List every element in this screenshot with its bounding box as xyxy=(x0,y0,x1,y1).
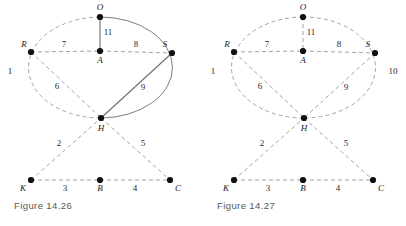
node-label-C: C xyxy=(175,183,182,193)
node-label-A: A xyxy=(96,55,103,65)
node-label-O: O xyxy=(97,2,104,12)
edge-weight-H-C: 5 xyxy=(344,138,349,148)
node-label-A: A xyxy=(299,55,306,65)
node-O xyxy=(97,14,103,20)
edge-weight-A-S: 8 xyxy=(134,39,139,49)
node-label-R: R xyxy=(223,39,230,49)
node-label-H: H xyxy=(97,123,105,133)
edge-weight-K-B: 3 xyxy=(266,183,271,193)
edge-weight-R-H: 6 xyxy=(258,81,263,91)
node-label-S: S xyxy=(163,39,168,49)
node-A xyxy=(300,48,306,54)
node-K xyxy=(231,177,237,183)
node-K xyxy=(28,177,34,183)
edge-A-S xyxy=(303,51,375,53)
figure-14-26: 11178692534ORASHKBC Figure 14.26 xyxy=(0,0,203,226)
edge-weight-K-H: 2 xyxy=(260,138,265,148)
node-R xyxy=(28,49,34,55)
edge-R-A xyxy=(31,51,100,52)
node-label-K: K xyxy=(222,183,230,193)
node-label-B: B xyxy=(300,183,306,193)
node-label-C: C xyxy=(378,183,385,193)
node-O xyxy=(300,14,306,20)
edge-R-H xyxy=(234,52,304,118)
edge-H-C xyxy=(101,118,170,180)
node-S xyxy=(372,50,378,56)
figure-14-27-canvas: 1101178692534ORASHKBC xyxy=(203,0,406,226)
edge-weight-A-S: 8 xyxy=(337,39,342,49)
edge-weight-K-H: 2 xyxy=(57,138,62,148)
figure-14-26-caption: Figure 14.26 xyxy=(14,200,72,211)
arc-weight-1: 1 xyxy=(8,66,13,76)
node-label-O: O xyxy=(300,2,307,12)
figure-14-27: 1101178692534ORASHKBC Figure 14.27 xyxy=(203,0,406,226)
edge-weight-O-A: 11 xyxy=(104,27,113,37)
edge-A-S xyxy=(100,51,172,53)
arc-weight-10: 10 xyxy=(389,66,399,76)
edge-weight-S-H: 9 xyxy=(141,82,146,92)
edge-H-C xyxy=(304,118,373,180)
edge-R-A xyxy=(234,51,303,52)
node-H xyxy=(301,115,307,121)
edge-weight-K-B: 3 xyxy=(63,183,68,193)
edge-weight-S-H: 9 xyxy=(344,82,349,92)
edge-S-H xyxy=(101,53,172,118)
edge-weight-H-C: 5 xyxy=(141,138,146,148)
node-C xyxy=(167,177,173,183)
figure-14-26-canvas: 11178692534ORASHKBC xyxy=(0,0,203,226)
arc-O-H-left xyxy=(28,17,101,118)
arc-weight-1: 1 xyxy=(211,66,216,76)
edge-weight-R-H: 6 xyxy=(55,81,60,91)
node-H xyxy=(98,115,104,121)
node-label-B: B xyxy=(97,183,103,193)
edge-weight-R-A: 7 xyxy=(62,39,67,49)
edge-K-H xyxy=(31,118,101,180)
edge-S-H xyxy=(304,53,375,118)
node-label-H: H xyxy=(300,123,308,133)
node-label-R: R xyxy=(20,39,27,49)
arc-O-H-left xyxy=(231,17,304,118)
node-label-S: S xyxy=(366,39,371,49)
figure-14-27-caption: Figure 14.27 xyxy=(217,200,275,211)
edge-weight-B-C: 4 xyxy=(133,183,138,193)
node-C xyxy=(370,177,376,183)
node-S xyxy=(169,50,175,56)
node-R xyxy=(231,49,237,55)
node-A xyxy=(97,48,103,54)
node-label-K: K xyxy=(19,183,27,193)
edge-weight-R-A: 7 xyxy=(265,39,270,49)
edge-weight-B-C: 4 xyxy=(336,183,341,193)
edge-weight-O-A: 11 xyxy=(307,27,316,37)
edge-R-H xyxy=(31,52,101,118)
edge-K-H xyxy=(234,118,304,180)
